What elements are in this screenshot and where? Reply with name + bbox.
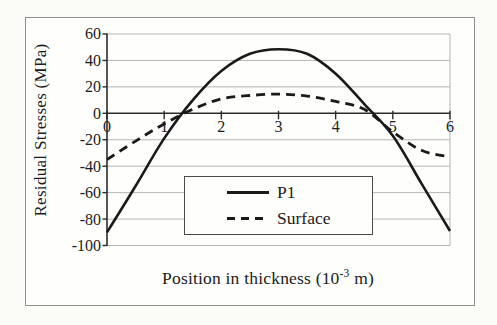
- chart-figure: 6040200-20-40-60-80-1000123456 Residual …: [25, 17, 475, 306]
- legend-label-surface: Surface: [277, 208, 330, 229]
- y-axis-tick-label: 20: [85, 78, 101, 95]
- surface-line-sample: [227, 217, 269, 220]
- plot-canvas: 6040200-20-40-60-80-1000123456 Residual …: [26, 18, 474, 305]
- y-axis-tick-label: -80: [80, 211, 101, 228]
- x-axis-title: Position in thickness (10-3 m): [62, 268, 474, 289]
- legend-box: P1 Surface: [184, 176, 373, 235]
- legend-item-surface: Surface: [185, 208, 372, 229]
- y-axis-tick-label: 40: [85, 52, 101, 69]
- p1-line-sample: [227, 191, 269, 194]
- x-axis-tick-label: 6: [446, 118, 454, 135]
- y-axis-title: Residual Stresses (MPa): [31, 43, 50, 216]
- y-axis-tick-label: 0: [93, 105, 101, 122]
- scanned-chart-page: 6040200-20-40-60-80-1000123456 Residual …: [0, 0, 497, 325]
- x-axis-title-suffix: m): [350, 268, 374, 288]
- x-axis-tick-label: 0: [103, 118, 111, 135]
- y-axis-tick-label: -20: [80, 131, 101, 148]
- y-axis-tick-label: -40: [80, 158, 101, 175]
- legend-label-p1: P1: [277, 182, 295, 203]
- x-axis-tick-label: 2: [217, 118, 225, 135]
- x-axis-title-superscript: -3: [340, 267, 350, 279]
- x-axis-tick-label: 3: [275, 118, 283, 135]
- y-axis-tick-label: 60: [85, 25, 101, 42]
- x-axis-tick-label: 4: [332, 118, 340, 135]
- y-axis-tick-label: -60: [80, 184, 101, 201]
- legend-item-p1: P1: [185, 182, 372, 203]
- x-axis-title-text: Position in thickness (10: [162, 268, 340, 288]
- y-axis-tick-label: -100: [72, 237, 101, 254]
